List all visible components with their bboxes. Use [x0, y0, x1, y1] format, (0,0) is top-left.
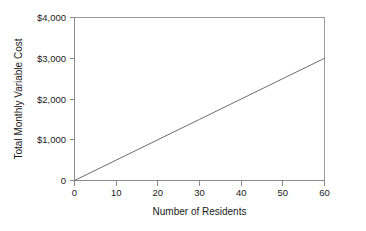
line-chart-figure: 0 $1,000 $2,000 $3,000 $4,000 0 10 20 30…: [0, 0, 366, 231]
x-tick-label-50: 50: [278, 187, 289, 198]
x-tick-label-20: 20: [153, 187, 164, 198]
x-axis-title: Number of Residents: [153, 206, 247, 217]
x-tick-label-0: 0: [72, 187, 77, 198]
x-tick-label-40: 40: [236, 187, 247, 198]
y-tick-label-0: 0: [61, 175, 66, 186]
y-tick-label-2000: $2,000: [37, 94, 66, 105]
x-tick-label-10: 10: [111, 187, 122, 198]
chart-canvas: 0 $1,000 $2,000 $3,000 $4,000 0 10 20 30…: [0, 0, 366, 231]
y-tick-label-3000: $3,000: [37, 53, 66, 64]
y-tick-label-4000: $4,000: [37, 12, 66, 23]
y-tick-label-1000: $1,000: [37, 134, 66, 145]
x-tick-label-30: 30: [194, 187, 205, 198]
y-axis-title: Total Monthly Variable Cost: [13, 38, 24, 159]
plot-area: [75, 18, 325, 181]
x-tick-label-60: 60: [319, 187, 330, 198]
